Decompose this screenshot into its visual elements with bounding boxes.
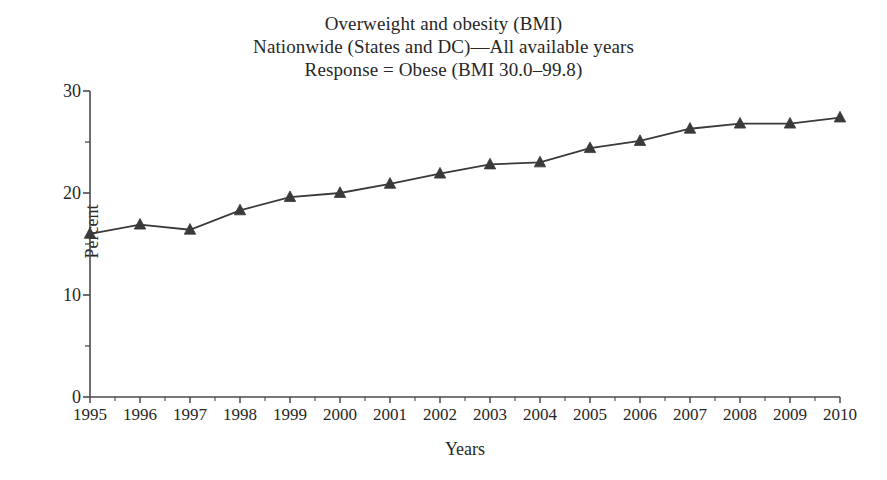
chart-subtitle: Nationwide (States and DC)—All available… bbox=[0, 35, 887, 58]
x-tick-label: 1996 bbox=[123, 405, 157, 425]
x-tick-label: 1998 bbox=[223, 405, 257, 425]
x-tick-label: 2008 bbox=[723, 405, 757, 425]
x-tick-label: 1997 bbox=[173, 405, 207, 425]
x-tick-label: 2005 bbox=[573, 405, 607, 425]
chart-subtitle-secondary: Response = Obese (BMI 30.0–99.8) bbox=[0, 58, 887, 81]
y-tick-label: 30 bbox=[63, 81, 81, 102]
chart-figure: Overweight and obesity (BMI) Nationwide … bbox=[0, 0, 887, 480]
chart-title-block: Overweight and obesity (BMI) Nationwide … bbox=[0, 12, 887, 81]
x-tick-label: 2002 bbox=[423, 405, 457, 425]
x-tick-label: 2001 bbox=[373, 405, 407, 425]
y-tick-label: 20 bbox=[63, 183, 81, 204]
chart-axes bbox=[83, 91, 840, 403]
x-tick-label: 1999 bbox=[273, 405, 307, 425]
plot-area: Percent Years 0102030 199519961997199819… bbox=[90, 91, 840, 397]
x-tick-label: 2010 bbox=[823, 405, 857, 425]
x-tick-label: 2000 bbox=[323, 405, 357, 425]
data-series-obese bbox=[84, 111, 845, 238]
x-tick-label: 2007 bbox=[673, 405, 707, 425]
x-tick-label: 2006 bbox=[623, 405, 657, 425]
x-axis-title: Years bbox=[90, 439, 840, 460]
x-tick-label: 1995 bbox=[73, 405, 107, 425]
chart-title: Overweight and obesity (BMI) bbox=[0, 12, 887, 35]
y-tick-label: 10 bbox=[63, 285, 81, 306]
x-tick-label: 2003 bbox=[473, 405, 507, 425]
chart-plot-svg bbox=[90, 91, 840, 397]
x-tick-label: 2004 bbox=[523, 405, 557, 425]
x-tick-label: 2009 bbox=[773, 405, 807, 425]
